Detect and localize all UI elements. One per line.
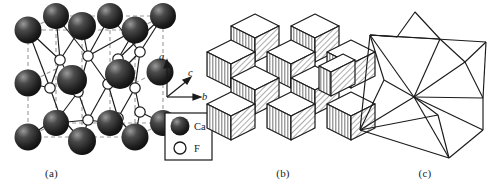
- atom-ca: [68, 12, 96, 40]
- atom-ca: [15, 124, 42, 151]
- atom-ca: [68, 127, 96, 155]
- axis-label-c: c: [188, 67, 193, 78]
- panel-a-graphic: a b c Ca F: [0, 0, 215, 187]
- atom-f: [130, 83, 140, 93]
- atom-f: [135, 47, 145, 57]
- panel-b-cube-packing: (b): [215, 0, 355, 187]
- atom-ca: [97, 3, 123, 29]
- axis-label-b: b: [202, 91, 207, 102]
- atom-ca: [122, 17, 149, 44]
- figure-root: a b c Ca F (a): [0, 0, 498, 187]
- panel-b-caption: (b): [213, 167, 353, 179]
- atom-ca: [122, 124, 149, 151]
- legend-marker-f: [174, 142, 186, 154]
- panel-a-fluorite-unit-cell: a b c Ca F (a): [0, 0, 215, 187]
- atom-f: [135, 107, 145, 117]
- atom-ca: [15, 17, 42, 44]
- panel-c-graphic: [352, 0, 498, 187]
- panel-c-polyhedra-wireframe: (c): [352, 0, 498, 187]
- atom-ca: [150, 3, 176, 29]
- atom-f: [83, 115, 93, 125]
- atom-f: [55, 55, 65, 65]
- wireframe-edges: [360, 12, 486, 158]
- legend-marker-ca: [171, 117, 190, 136]
- atom-ca: [105, 59, 135, 89]
- legend-box: Ca F: [165, 113, 212, 160]
- atom-ca: [97, 110, 123, 136]
- atom-ca: [43, 3, 69, 29]
- cube-stack: [207, 14, 375, 140]
- atom-ca: [147, 59, 174, 86]
- axis-label-a: a: [159, 51, 164, 62]
- legend-label-ca: Ca: [194, 121, 206, 132]
- atom-f: [45, 83, 55, 93]
- atom-f: [83, 51, 93, 61]
- axis-b-arrow: [193, 94, 201, 100]
- cube: [319, 54, 355, 96]
- panel-a-caption: (a): [0, 167, 159, 179]
- atom-group-ca: [15, 3, 177, 155]
- atom-ca: [43, 110, 69, 136]
- atom-ca: [57, 65, 87, 95]
- panel-c-caption: (c): [352, 167, 498, 179]
- panel-b-graphic: [215, 0, 355, 187]
- legend-label-f: F: [194, 143, 200, 154]
- atom-ca: [15, 70, 42, 97]
